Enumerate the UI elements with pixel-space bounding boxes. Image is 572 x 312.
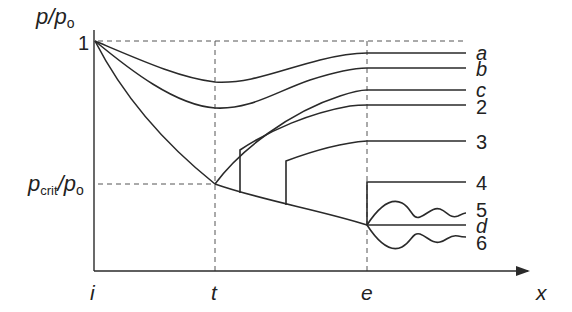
curve-a [95,41,466,82]
nozzle-pressure-diagram: p/po 1 pcrit/po i t e x a b c 2 3 4 5 d … [0,0,572,312]
curve-label-3: 3 [476,131,487,153]
curve-b [95,41,466,108]
curve-c [215,90,466,184]
y-tick-1: 1 [78,32,89,54]
curve-label-2: 2 [476,96,487,118]
curve-4 [367,182,466,225]
curve-label-6: 6 [476,232,487,254]
curve-3 [286,141,466,205]
y-tick-p-crit: pcrit/po [27,171,84,198]
x-tick-e: e [361,281,373,304]
y-axis-label: p/po [35,4,75,31]
curve-6 [367,225,466,249]
curve-2 [240,105,466,193]
curve-label-4: 4 [476,172,487,194]
x-axis-label: x [535,281,548,304]
x-tick-i: i [90,281,96,304]
x-tick-t: t [211,281,218,304]
curve-5 [367,201,466,225]
curve-label-b: b [476,58,487,80]
curve-supersonic-branch [95,41,367,225]
